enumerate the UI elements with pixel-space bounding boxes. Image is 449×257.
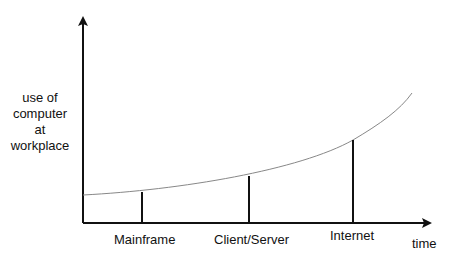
x-axis-label: time [412,236,437,251]
y-label-line: at [0,122,80,138]
era-label-client-server: Client/Server [214,232,289,247]
computer-usage-diagram: use of computer at workplace Mainframe C… [0,0,449,257]
y-label-line: workplace [0,138,80,154]
growth-curve [83,93,412,195]
y-axis-label: use of computer at workplace [0,90,80,154]
y-label-line: computer [0,106,80,122]
y-label-line: use of [0,90,80,106]
era-label-mainframe: Mainframe [114,232,175,247]
era-label-internet: Internet [330,228,374,243]
